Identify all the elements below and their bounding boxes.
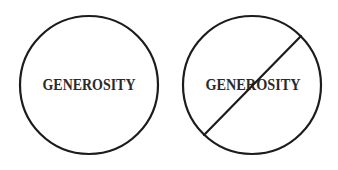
right-symbol: GENEROSITY <box>183 16 321 154</box>
left-label: GENEROSITY <box>43 76 136 93</box>
generosity-diagram: GENEROSITY GENEROSITY <box>0 0 338 170</box>
left-symbol: GENEROSITY <box>20 16 158 154</box>
